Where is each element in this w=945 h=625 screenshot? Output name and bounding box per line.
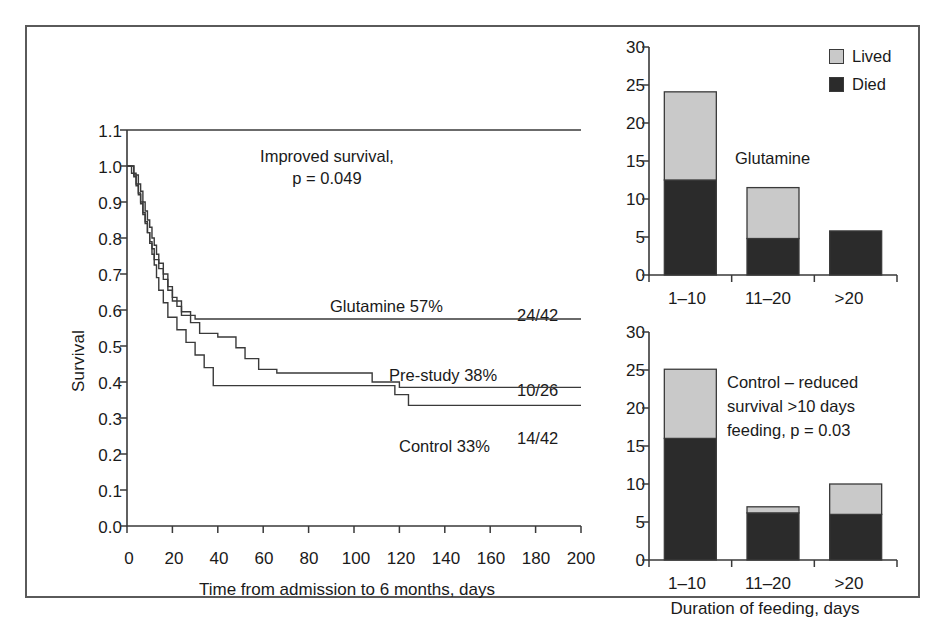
- control-bar-plot: [607, 314, 922, 600]
- bb-x-axis-title: Duration of feeding, days: [635, 599, 895, 619]
- bar-segment-died: [747, 513, 799, 560]
- glutamine-bar-plot: [607, 27, 922, 314]
- control-bar-panel: 30 25 20 15 10 5 0 1–10 11–20 >20 Durati…: [607, 314, 922, 600]
- bar-segment-lived: [830, 484, 882, 514]
- bar-segment-died: [664, 438, 716, 560]
- km-curve-glutamine: [127, 166, 581, 319]
- bar-segment-died: [664, 180, 716, 275]
- kaplan-meier-panel: Survival 1.1 1.0 0.9 0.8 0.7 0.6 0.5 0.4…: [27, 27, 607, 600]
- bar-segment-lived: [747, 188, 799, 239]
- bar-segment-lived: [664, 92, 716, 180]
- kaplan-meier-plot: [27, 27, 607, 600]
- bar-segment-lived: [747, 507, 799, 513]
- bar-segment-died: [830, 231, 882, 275]
- km-curve-control: [127, 166, 581, 405]
- glutamine-bar-panel: 30 25 20 15 10 5 0 1–10 11–20 >20 Glutam…: [607, 27, 922, 314]
- bar-segment-died: [830, 514, 882, 560]
- bar-segment-lived: [664, 369, 716, 438]
- figure-frame: Survival 1.1 1.0 0.9 0.8 0.7 0.6 0.5 0.4…: [25, 25, 920, 598]
- bar-segment-died: [747, 239, 799, 275]
